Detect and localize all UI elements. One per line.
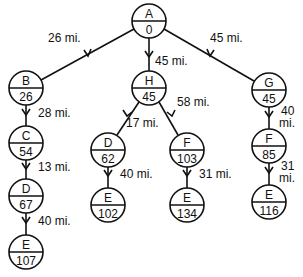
node-F-103: F 103	[170, 133, 204, 167]
node-cost: 67	[19, 198, 33, 212]
edge-label: 58 mi.	[177, 95, 210, 109]
node-cost: 103	[177, 152, 197, 166]
node-name: E	[22, 238, 30, 252]
node-cost: 45	[142, 90, 156, 104]
node-cost: 26	[19, 90, 33, 104]
node-name: F	[183, 136, 190, 150]
node-B: B 26	[9, 71, 43, 105]
node-name: G	[264, 76, 273, 90]
node-D-67: D 67	[9, 179, 43, 213]
node-name: E	[104, 191, 112, 205]
edge-label: 40 mi.	[120, 167, 153, 181]
edge-label: 17 mi.	[126, 116, 159, 130]
node-cost: 102	[98, 207, 118, 221]
node-name: C	[22, 129, 31, 143]
node-F-85: F 85	[252, 129, 286, 163]
edge-label: 28 mi.	[38, 106, 71, 120]
node-cost: 107	[16, 254, 36, 268]
node-G: G 45	[252, 73, 286, 107]
edge-label: mi.	[279, 171, 295, 185]
node-H: H 45	[132, 71, 166, 105]
node-E-116: E 116	[252, 185, 286, 219]
node-E-107: E 107	[9, 235, 43, 269]
node-name: H	[145, 74, 154, 88]
node-A: A 0	[132, 4, 166, 38]
edge-label: mi.	[279, 116, 295, 130]
search-tree-diagram: 26 mi. 45 mi. 45 mi. 28 mi. 13 mi. 40 mi…	[0, 0, 303, 277]
node-cost: 0	[146, 23, 153, 37]
node-E-102: E 102	[91, 188, 125, 222]
node-C: C 54	[9, 126, 43, 160]
edge-label: 13 mi.	[38, 160, 71, 174]
node-name: A	[145, 7, 153, 21]
node-cost: 62	[101, 152, 115, 166]
node-name: F	[265, 132, 272, 146]
node-name: D	[22, 182, 31, 196]
node-name: E	[183, 191, 191, 205]
node-D-62: D 62	[91, 133, 125, 167]
node-cost: 134	[177, 207, 197, 221]
edges	[22, 29, 273, 235]
node-name: B	[22, 74, 30, 88]
edge-label: 45 mi.	[155, 54, 188, 68]
edge-label: 26 mi.	[48, 31, 81, 45]
edge-H-F	[159, 102, 178, 135]
arrow-icon	[167, 110, 175, 116]
node-cost: 116	[259, 204, 278, 218]
node-cost: 45	[262, 92, 276, 106]
edge-label: 40 mi.	[38, 214, 71, 228]
edge-label: 31 mi.	[199, 167, 232, 181]
node-cost: 85	[262, 148, 276, 162]
node-E-134: E 134	[170, 188, 204, 222]
edge-label: 45 mi.	[210, 31, 243, 45]
node-cost: 54	[19, 145, 33, 159]
node-name: D	[104, 136, 113, 150]
node-name: E	[265, 188, 273, 202]
